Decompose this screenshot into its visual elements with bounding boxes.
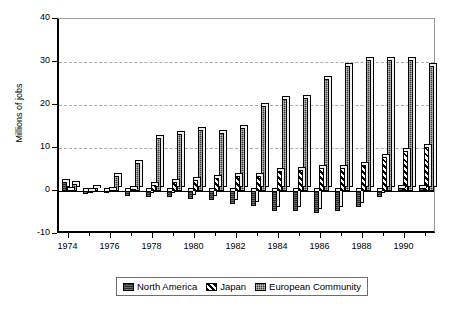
x-tick-mark (404, 233, 405, 238)
bar-north-america-1979 (167, 191, 171, 197)
bar-japan-1987 (340, 168, 344, 191)
bar-side-face (413, 58, 416, 187)
bar-top-face (219, 130, 226, 133)
bar-side-face (371, 58, 374, 187)
bar-side-face (408, 149, 411, 187)
bar-japan-1975 (88, 191, 92, 193)
x-tick-mark (68, 233, 69, 238)
bar-side-face (329, 77, 332, 187)
bar-side-face (308, 96, 311, 187)
bar-side-face (203, 128, 206, 187)
legend-swatch-icon (206, 283, 217, 291)
bar-top-face (62, 179, 69, 182)
bar-side-face (266, 104, 269, 187)
bar-japan-1989 (382, 157, 386, 191)
y-tick-label: 40 (20, 13, 50, 22)
bar-side-face (298, 189, 301, 207)
bar-top-face (256, 173, 263, 176)
y-tick-label: 10 (20, 142, 50, 151)
bar-side-face (287, 97, 290, 187)
bar-top-face (198, 127, 205, 130)
bar-top-face (319, 165, 326, 168)
bar-side-face (345, 166, 348, 187)
bar-top-face (298, 167, 305, 170)
x-tick-mark (278, 233, 279, 238)
bar-north-america-1976 (104, 191, 108, 193)
bar-north-america-1985 (293, 191, 297, 211)
x-tick-mark (131, 233, 132, 236)
bar-side-face (245, 126, 248, 187)
legend-label: European Community (269, 282, 361, 292)
x-tick-mark (110, 233, 111, 238)
x-tick-mark (425, 233, 426, 236)
bar-side-face (277, 189, 280, 207)
x-tick-mark (362, 233, 363, 238)
bar-japan-1982 (235, 176, 239, 191)
bar-north-america-1975 (83, 191, 87, 194)
x-tick-label: 1990 (387, 241, 421, 251)
bar-side-face (350, 64, 353, 187)
bar-japan-1980 (193, 180, 197, 191)
bar-side-face (224, 131, 227, 187)
bar-side-face (182, 132, 185, 187)
bar-north-america-1989 (377, 191, 381, 197)
bar-top-face (235, 173, 242, 176)
bar-north-america-1981 (209, 191, 213, 200)
x-tick-mark (173, 233, 174, 236)
chart-figure: Millions of jobs -10010203040 1974197619… (0, 0, 449, 317)
bar-side-face (282, 169, 285, 187)
bar-north-america-1974 (62, 182, 66, 191)
bar-top-face (177, 131, 184, 134)
bar-japan-1978 (151, 185, 155, 191)
bar-top-face (135, 160, 142, 163)
bar-north-america-1984 (272, 191, 276, 211)
x-tick-label: 1982 (219, 241, 253, 251)
bar-japan-1979 (172, 182, 176, 191)
x-tick-label: 1986 (303, 241, 337, 251)
bar-side-face (361, 189, 364, 203)
bar-top-face (214, 175, 221, 178)
bar-japan-1991 (424, 147, 428, 191)
bar-top-face (345, 63, 352, 66)
y-tick-mark (52, 233, 57, 234)
bar-north-america-1982 (230, 191, 234, 204)
legend-item-north-america: North America (123, 282, 197, 292)
legend-label: Japan (220, 282, 246, 292)
bar-side-face (161, 136, 164, 187)
bar-top-face (361, 162, 368, 165)
bar-top-face (156, 135, 163, 138)
bar-japan-1988 (361, 165, 365, 191)
bar-side-face (303, 168, 306, 188)
x-tick-mark (341, 233, 342, 236)
bar-japan-1974 (67, 190, 71, 192)
legend-swatch-icon (255, 283, 266, 291)
bar-side-face (392, 58, 395, 187)
bar-top-face (240, 125, 247, 128)
bar-top-face (366, 57, 373, 60)
bar-top-face (114, 173, 121, 176)
bar-japan-1983 (256, 176, 260, 191)
y-tick-label: 0 (20, 185, 50, 194)
x-tick-mark (194, 233, 195, 238)
x-tick-mark (152, 233, 153, 238)
bar-north-america-1987 (335, 191, 339, 211)
y-tick-label: -10 (20, 228, 50, 237)
bar-north-america-1990 (398, 188, 402, 191)
bar-top-face (324, 76, 331, 79)
legend-label: North America (137, 282, 197, 292)
legend-swatch-icon (123, 283, 134, 291)
legend-item-japan: Japan (206, 282, 246, 292)
legend-item-european-community: European Community (255, 282, 361, 292)
bar-top-face (382, 154, 389, 157)
bar-japan-1985 (298, 170, 302, 192)
bar-north-america-1980 (188, 191, 192, 199)
y-axis-title: Millions of jobs (14, 58, 24, 168)
chart-legend: North AmericaJapanEuropean Community (116, 277, 368, 296)
bar-side-face (324, 166, 327, 187)
bar-north-america-1986 (314, 191, 318, 213)
bar-top-face (193, 177, 200, 180)
bar-top-face (398, 185, 405, 188)
x-tick-label: 1978 (135, 241, 169, 251)
bar-top-face (261, 103, 268, 106)
bar-north-america-1983 (251, 191, 255, 206)
